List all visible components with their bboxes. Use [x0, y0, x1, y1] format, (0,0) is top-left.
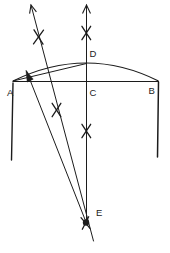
apparent-sight-line — [27, 71, 87, 222]
label-C: C — [90, 87, 97, 98]
label-B: B — [149, 85, 155, 96]
dome-arc — [13, 63, 159, 81]
chord-a-d-line — [13, 64, 87, 82]
label-A: A — [7, 87, 14, 98]
label-E: E — [96, 207, 102, 218]
right-wall-line — [158, 82, 159, 157]
label-D: D — [90, 48, 97, 59]
diagram-canvas: ABCDE — [0, 0, 170, 253]
diagram-page: ABCDE — [0, 0, 170, 253]
eye-point-dot — [83, 219, 89, 225]
